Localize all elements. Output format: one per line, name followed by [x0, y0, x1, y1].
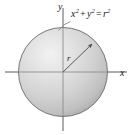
radius-label: r: [67, 54, 71, 63]
equation-plus-operator: +: [79, 8, 87, 19]
circle-equation-figure: y x r x2+y2=r2: [0, 0, 132, 135]
y-axis-label: y: [58, 2, 62, 12]
equation-r-exponent: 2: [107, 7, 110, 14]
x-axis-label: x: [120, 68, 124, 78]
equation-equals-operator: =: [95, 8, 103, 19]
figure-canvas: [0, 0, 132, 135]
circle-equation-label: x2+y2=r2: [71, 9, 110, 19]
